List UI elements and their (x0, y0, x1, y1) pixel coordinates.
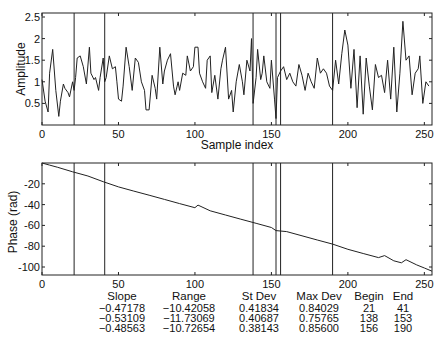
amplitude-ticks: 0501001502002500.511.522.5 (25, 11, 434, 140)
y-tick-label: -80 (24, 240, 40, 252)
y-tick-label: -100 (18, 261, 40, 273)
y-tick-label: 2.5 (25, 11, 40, 23)
y-tick-label: 2 (34, 33, 40, 45)
x-tick-label: 100 (186, 278, 204, 290)
stats-row: −0.48563 −10.72654 0.38143 0.85600 156 1… (96, 323, 418, 333)
phase-plot: 050100150200250-20-40-60-80-100 Phase (r… (6, 163, 434, 290)
y-tick-label: -40 (24, 199, 40, 211)
x-tick-label: 150 (262, 278, 280, 290)
x-tick-label: 250 (415, 278, 433, 290)
x-tick-label: 200 (339, 278, 357, 290)
cell-begin: 156 (350, 323, 388, 333)
y-tick-label: -20 (24, 178, 40, 190)
x-tick-label: 0 (39, 278, 45, 290)
x-tick-label: 0 (39, 128, 45, 140)
sample-index-xlabel: Sample index (201, 138, 274, 152)
segment-stats-table: Slope Range St Dev Max Dev Begin End −0.… (96, 291, 418, 333)
phase-ticks: 050100150200250-20-40-60-80-100 (18, 163, 434, 290)
amplitude-line (42, 21, 429, 118)
x-tick-label: 50 (112, 278, 124, 290)
phase-plot-frame (42, 163, 432, 275)
amplitude-plot-frame (42, 13, 432, 125)
cell-max-dev: 0.85600 (288, 323, 350, 333)
x-tick-label: 250 (415, 128, 433, 140)
phase-line (42, 163, 432, 271)
y-tick-label: 0.5 (25, 97, 40, 109)
cell-range: −10.72654 (148, 323, 230, 333)
cell-end: 190 (388, 323, 418, 333)
x-tick-label: 50 (112, 128, 124, 140)
amplitude-plot: 0501001502002500.511.522.5 Amplitude Sam… (14, 11, 434, 152)
cell-slope: −0.48563 (96, 323, 148, 333)
x-tick-label: 200 (339, 128, 357, 140)
y-tick-label: 1 (34, 76, 40, 88)
y-tick-label: -60 (24, 219, 40, 231)
segment-markers (74, 163, 332, 275)
amplitude-ylabel: Amplitude (14, 42, 28, 96)
phase-ylabel: Phase (rad) (6, 191, 20, 254)
cell-st-dev: 0.38143 (230, 323, 288, 333)
